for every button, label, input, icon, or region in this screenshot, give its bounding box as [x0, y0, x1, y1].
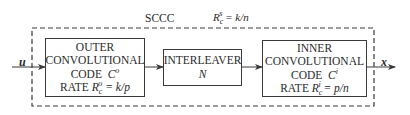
- interleaver-param: N: [199, 68, 207, 82]
- inner-rate-sup: i: [318, 80, 320, 89]
- inner-rate-sub: c: [319, 88, 323, 97]
- interleaver-block: INTERLEAVER N: [163, 49, 242, 86]
- outer-rate-line: RATE Rco = k/p: [60, 81, 130, 95]
- inner-code-sup: i: [336, 67, 338, 76]
- overall-rate-sup: s: [219, 9, 222, 18]
- outer-code-block: OUTER CONVOLUTIONAL CODE Co RATE Rco = k…: [45, 38, 145, 97]
- overall-rate-sub: c: [220, 17, 224, 26]
- outer-line-2: CONVOLUTIONAL: [46, 54, 145, 68]
- outer-rate-sup: o: [98, 79, 102, 88]
- outer-rate-sub: c: [99, 87, 103, 96]
- inner-rate-line: RATE Rci = p/n: [280, 82, 349, 96]
- inner-line-2: CONVOLUTIONAL: [265, 55, 364, 69]
- outer-rate-value: = k/p: [105, 81, 130, 93]
- inner-rate-label: RATE: [280, 82, 309, 94]
- input-label-u: u: [19, 56, 26, 68]
- outer-code-sup: o: [115, 66, 119, 75]
- outer-code-label: CODE: [71, 68, 102, 80]
- inner-rate-value: = p/n: [323, 82, 348, 94]
- output-label-x: x: [381, 56, 387, 68]
- outer-rate-label: RATE: [60, 81, 89, 93]
- sccc-title: SCCC: [145, 13, 174, 25]
- outer-line-1: OUTER: [76, 41, 114, 55]
- outer-code-line: CODE Co: [71, 68, 120, 82]
- inner-code-label: CODE: [291, 69, 322, 81]
- inner-line-1: INNER: [297, 42, 332, 56]
- interleaver-label: INTERLEAVER: [164, 54, 242, 68]
- overall-rate-value: = k/n: [225, 11, 249, 23]
- inner-code-symbol: C: [328, 69, 336, 81]
- inner-code-line: CODE Ci: [291, 69, 338, 83]
- inner-code-block: INNER CONVOLUTIONAL CODE Ci RATE Rci = p…: [262, 40, 367, 97]
- overall-rate-label: Rcs = k/n: [213, 12, 249, 23]
